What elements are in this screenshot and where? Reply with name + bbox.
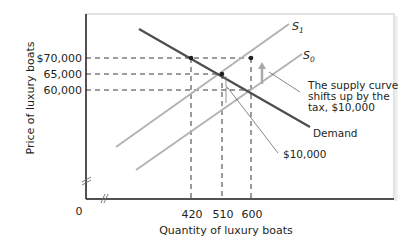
label-s1: S1: [292, 20, 304, 35]
label-s0: S0: [303, 49, 315, 64]
x-tick-420: 420: [182, 208, 203, 221]
x-axis-title: Quantity of luxury boats: [159, 224, 293, 237]
annotation-tax: $10,000: [283, 148, 326, 160]
annotation-leader-shift: [269, 72, 300, 92]
point-420-70000: [189, 56, 194, 61]
point-510-65000: [220, 72, 225, 77]
y-tick-60000: 60,000: [44, 84, 83, 97]
y-axis-title: Price of luxury boats: [24, 41, 37, 154]
x-tick-0: 0: [76, 205, 83, 218]
supply-curve-s0: [136, 54, 302, 170]
point-600-70000: [249, 56, 254, 61]
y-tick-65000: 65,000: [44, 68, 83, 81]
annotation-leader-tax: [228, 88, 278, 153]
chart: $70,000 65,000 60,000 0 420 510 600 Quan…: [0, 0, 417, 241]
supply-curve-s1: [116, 24, 289, 147]
y-tick-70000: $70,000: [37, 52, 83, 65]
x-tick-600: 600: [242, 208, 263, 221]
annotation-shift-line3: tax, $10,000: [308, 101, 375, 113]
label-demand: Demand: [313, 127, 358, 139]
x-tick-510: 510: [213, 208, 234, 221]
